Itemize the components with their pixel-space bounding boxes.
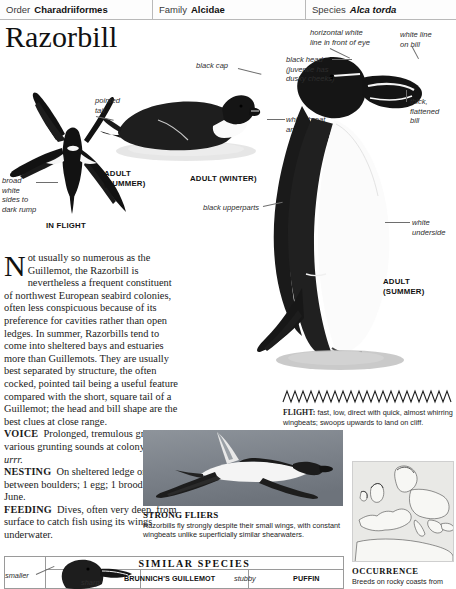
label-broad-white-sides: broad white sides to dark rump	[2, 176, 36, 215]
taxonomy-order: Order Charadriiformes	[0, 0, 152, 19]
label-black-head: black head (juvenile has dusky cheeks)	[286, 55, 335, 84]
label-smaller: smaller	[5, 571, 29, 580]
label-pointed-tail: pointed tail	[95, 96, 120, 115]
label-thick-flattened-bill: thick, flattened bill	[410, 97, 439, 126]
taxonomy-species: Species Alca torda	[305, 0, 456, 19]
caption-adult-summer-standing: ADULT (SUMMER)	[383, 277, 424, 296]
flight-description: FLIGHT: fast, low, direct with quick, al…	[283, 408, 453, 427]
label-black-cap: black cap	[196, 61, 228, 71]
voice-call: urrr.	[4, 454, 23, 465]
family-value: Alcidae	[191, 4, 225, 15]
label-stubby: stubby	[234, 574, 256, 583]
label-horizontal-white-line: horizontal white line in front of eye	[310, 28, 370, 47]
feeding-label: FEEDING	[4, 504, 52, 515]
species-value: Alca torda	[350, 4, 396, 15]
leader-broad-white	[36, 182, 58, 183]
illustration-razorbill-adult-summer	[236, 48, 456, 368]
similar-species-divider-1	[45, 557, 46, 589]
species-key: Species	[312, 4, 346, 15]
label-white-underside: white underside	[412, 218, 445, 237]
family-key: Family	[159, 4, 187, 15]
occurrence-title: OCCURRENCE	[352, 566, 419, 576]
description-paragraph: Not usually so numerous as the Guillemot…	[4, 252, 182, 428]
leader-thick-bill	[406, 90, 407, 102]
voice-label: VOICE	[4, 428, 38, 439]
field-guide-page: Order Charadriiformes Family Alcidae Spe…	[0, 0, 456, 589]
leader-white-underside	[385, 222, 410, 223]
photo-razorbill-in-flight	[143, 430, 343, 506]
label-sharp: sharp	[81, 578, 100, 587]
caption-in-flight: IN FLIGHT	[46, 221, 86, 231]
nesting-label: NESTING	[4, 466, 51, 477]
label-black-upperparts: black upperparts	[203, 203, 259, 213]
photo-caption-title: STRONG FLIERS	[143, 510, 218, 520]
flight-label: FLIGHT:	[283, 408, 315, 417]
label-white-line-on-bill: white line on bill	[400, 30, 432, 49]
photo-caption-text: Razorbills fly strongly despite their sm…	[143, 521, 343, 540]
occurrence-text: Breeds on rocky coasts from	[352, 577, 456, 586]
name-brunnichs-guillemot: BRUNNICH'S GUILLEMOT	[124, 574, 215, 583]
occurrence-map	[352, 461, 454, 562]
taxonomy-family: Family Alcidae	[152, 0, 305, 19]
flight-pattern-graphic	[283, 388, 453, 406]
order-value: Charadriiformes	[34, 4, 107, 15]
taxonomy-header: Order Charadriiformes Family Alcidae Spe…	[0, 0, 456, 20]
order-key: Order	[6, 4, 30, 15]
leader-black-head	[332, 59, 352, 60]
description-text: ot usually so numerous as the Guillemot,…	[4, 252, 178, 427]
drop-cap: N	[4, 253, 28, 278]
page-title: Razorbill	[5, 22, 118, 52]
name-puffin: PUFFIN	[293, 574, 320, 583]
